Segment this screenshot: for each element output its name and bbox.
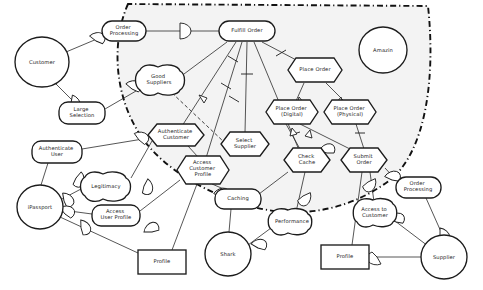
node-profile-left[interactable]: Profile — [138, 250, 186, 274]
node-label-legitimacy: Legitimacy — [91, 183, 120, 190]
diagram-canvas: Customer Order Processing Fulfill Order — [0, 0, 483, 290]
node-supplier[interactable]: Supplier — [421, 235, 467, 279]
node-label-check-cache: Check Cache — [298, 153, 316, 165]
node-authenticate-customer[interactable]: Authenticate Customer — [148, 124, 204, 146]
node-good-suppliers[interactable]: Good Suppliers — [136, 65, 185, 95]
node-order-processing-left[interactable]: Order Processing — [102, 21, 146, 41]
node-label-ipassport: iPassport — [28, 204, 52, 211]
node-label-shark: Shark — [220, 251, 235, 257]
node-ipassport[interactable]: iPassport — [17, 185, 63, 229]
node-access-user-profile[interactable]: Access User Profile — [92, 205, 140, 226]
node-label-place-order-physical: Place Order (Physical) — [333, 105, 366, 118]
node-label-place-order: Place Order — [299, 66, 331, 72]
node-label-profile-right: Profile — [337, 253, 354, 259]
node-access-to-customer[interactable]: Access to Customer — [353, 199, 397, 227]
node-place-order-digital[interactable]: Place Order (Digital) — [266, 100, 318, 124]
node-label-profile-left: Profile — [154, 258, 171, 264]
node-amazin[interactable]: Amazin — [359, 27, 407, 73]
node-fulfill-order[interactable]: Fulfill Order — [219, 21, 275, 41]
node-label-select-supplier: Select Supplier — [234, 137, 257, 150]
node-label-customer: Customer — [29, 59, 56, 65]
node-label-supplier: Supplier — [433, 254, 456, 261]
node-check-cache[interactable]: Check Cache — [284, 148, 330, 172]
node-place-order-physical[interactable]: Place Order (Physical) — [324, 100, 376, 124]
node-profile-right[interactable]: Profile — [321, 245, 369, 269]
node-label-fulfill-order: Fulfill Order — [231, 27, 263, 33]
diagram-svg: Customer Order Processing Fulfill Order — [0, 0, 483, 290]
node-label-access-to-customer: Access to Customer — [361, 206, 388, 218]
node-submit-order[interactable]: Submit Order — [341, 148, 387, 172]
node-select-supplier[interactable]: Select Supplier — [221, 132, 269, 156]
node-large-selection[interactable]: Large Selection — [59, 102, 105, 124]
node-label-submit-order: Submit Order — [354, 153, 375, 165]
node-access-customer-profile[interactable]: Access Customer Profile — [177, 156, 229, 184]
node-shark[interactable]: Shark — [205, 232, 251, 276]
node-performance[interactable]: Performance — [268, 209, 312, 235]
node-order-processing-right[interactable]: Order Processing — [396, 177, 441, 198]
node-label-authenticate-customer: Authenticate Customer — [158, 128, 194, 140]
node-customer[interactable]: Customer — [15, 37, 69, 87]
node-label-performance: Performance — [275, 218, 309, 224]
node-authenticate-user[interactable]: Authenticate User — [32, 141, 82, 163]
node-caching[interactable]: Caching — [215, 189, 261, 209]
node-label-amazin: Amazin — [373, 47, 393, 53]
node-label-caching: Caching — [227, 195, 249, 202]
node-legitimacy[interactable]: Legitimacy — [81, 172, 131, 201]
node-place-order[interactable]: Place Order — [288, 58, 342, 82]
